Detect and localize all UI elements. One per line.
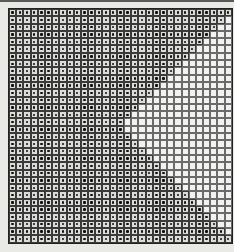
grid-cell-dotted[interactable]	[146, 67, 153, 74]
grid-cell-dotted[interactable]	[67, 170, 74, 177]
grid-cell-dotted[interactable]	[110, 155, 117, 162]
grid-cell-dotted[interactable]	[182, 31, 189, 38]
grid-cell-dotted[interactable]	[102, 67, 109, 74]
grid-cell-dotted[interactable]	[38, 45, 45, 52]
grid-cell-dotted[interactable]	[110, 111, 117, 118]
grid-cell-dotted[interactable]	[23, 184, 30, 191]
grid-cell-empty[interactable]	[182, 60, 189, 67]
grid-cell-dotted[interactable]	[203, 24, 210, 31]
grid-cell-dotted[interactable]	[9, 38, 16, 45]
grid-cell-dotted[interactable]	[95, 38, 102, 45]
grid-cell-dotted[interactable]	[23, 126, 30, 133]
grid-cell-empty[interactable]	[225, 177, 232, 184]
grid-cell-dotted[interactable]	[38, 148, 45, 155]
grid-cell-empty[interactable]	[153, 148, 160, 155]
grid-cell-dotted[interactable]	[52, 184, 59, 191]
grid-cell-dotted[interactable]	[81, 75, 88, 82]
grid-cell-empty[interactable]	[210, 162, 217, 169]
grid-cell-dotted[interactable]	[102, 31, 109, 38]
grid-cell-dotted[interactable]	[9, 75, 16, 82]
grid-cell-dotted[interactable]	[67, 118, 74, 125]
grid-cell-dotted[interactable]	[23, 235, 30, 242]
grid-cell-dotted[interactable]	[124, 9, 131, 16]
grid-cell-dotted[interactable]	[131, 213, 138, 220]
grid-cell-dotted[interactable]	[117, 60, 124, 67]
grid-cell-dotted[interactable]	[153, 60, 160, 67]
grid-cell-empty[interactable]	[160, 155, 167, 162]
grid-cell-dotted[interactable]	[131, 82, 138, 89]
grid-cell-empty[interactable]	[182, 126, 189, 133]
grid-cell-dotted[interactable]	[146, 191, 153, 198]
grid-cell-dotted[interactable]	[174, 199, 181, 206]
grid-cell-dotted[interactable]	[117, 133, 124, 140]
grid-cell-dotted[interactable]	[124, 31, 131, 38]
grid-cell-dotted[interactable]	[160, 75, 167, 82]
grid-cell-dotted[interactable]	[45, 82, 52, 89]
grid-cell-empty[interactable]	[217, 155, 224, 162]
grid-cell-dotted[interactable]	[174, 228, 181, 235]
grid-cell-dotted[interactable]	[102, 191, 109, 198]
grid-cell-dotted[interactable]	[117, 148, 124, 155]
grid-cell-dotted[interactable]	[117, 53, 124, 60]
grid-cell-dotted[interactable]	[23, 45, 30, 52]
grid-cell-empty[interactable]	[210, 177, 217, 184]
grid-cell-dotted[interactable]	[52, 31, 59, 38]
grid-cell-dotted[interactable]	[52, 67, 59, 74]
grid-cell-dotted[interactable]	[67, 16, 74, 23]
grid-cell-dotted[interactable]	[124, 191, 131, 198]
grid-cell-dotted[interactable]	[110, 82, 117, 89]
grid-cell-dotted[interactable]	[45, 221, 52, 228]
grid-cell-dotted[interactable]	[52, 140, 59, 147]
grid-cell-empty[interactable]	[203, 191, 210, 198]
grid-cell-dotted[interactable]	[81, 235, 88, 242]
grid-cell-dotted[interactable]	[74, 213, 81, 220]
grid-cell-empty[interactable]	[225, 38, 232, 45]
grid-cell-dotted[interactable]	[174, 31, 181, 38]
grid-cell-dotted[interactable]	[88, 213, 95, 220]
grid-cell-empty[interactable]	[196, 111, 203, 118]
grid-cell-empty[interactable]	[217, 67, 224, 74]
grid-cell-empty[interactable]	[182, 67, 189, 74]
grid-cell-dotted[interactable]	[59, 170, 66, 177]
grid-cell-dotted[interactable]	[110, 45, 117, 52]
grid-cell-dotted[interactable]	[81, 206, 88, 213]
grid-cell-dotted[interactable]	[81, 67, 88, 74]
grid-cell-dotted[interactable]	[16, 97, 23, 104]
grid-cell-dotted[interactable]	[74, 228, 81, 235]
grid-cell-empty[interactable]	[196, 60, 203, 67]
grid-cell-dotted[interactable]	[81, 53, 88, 60]
grid-cell-empty[interactable]	[210, 206, 217, 213]
grid-cell-empty[interactable]	[146, 118, 153, 125]
grid-cell-dotted[interactable]	[38, 133, 45, 140]
grid-cell-dotted[interactable]	[160, 191, 167, 198]
grid-cell-empty[interactable]	[189, 170, 196, 177]
grid-cell-dotted[interactable]	[174, 38, 181, 45]
grid-cell-empty[interactable]	[189, 60, 196, 67]
grid-cell-dotted[interactable]	[131, 9, 138, 16]
grid-cell-dotted[interactable]	[95, 148, 102, 155]
grid-cell-dotted[interactable]	[174, 191, 181, 198]
grid-cell-empty[interactable]	[146, 111, 153, 118]
grid-cell-dotted[interactable]	[16, 126, 23, 133]
grid-cell-dotted[interactable]	[74, 133, 81, 140]
grid-cell-dotted[interactable]	[95, 31, 102, 38]
grid-cell-empty[interactable]	[203, 111, 210, 118]
grid-cell-empty[interactable]	[203, 133, 210, 140]
grid-cell-empty[interactable]	[196, 155, 203, 162]
grid-cell-dotted[interactable]	[124, 75, 131, 82]
grid-cell-dotted[interactable]	[45, 133, 52, 140]
grid-cell-empty[interactable]	[182, 140, 189, 147]
grid-cell-dotted[interactable]	[74, 162, 81, 169]
game-board[interactable]	[8, 8, 233, 244]
grid-cell-dotted[interactable]	[124, 82, 131, 89]
grid-cell-dotted[interactable]	[95, 111, 102, 118]
grid-cell-dotted[interactable]	[95, 60, 102, 67]
grid-cell-dotted[interactable]	[138, 155, 145, 162]
grid-cell-empty[interactable]	[210, 199, 217, 206]
grid-cell-dotted[interactable]	[59, 133, 66, 140]
grid-cell-empty[interactable]	[160, 162, 167, 169]
grid-cell-dotted[interactable]	[81, 140, 88, 147]
grid-cell-dotted[interactable]	[138, 89, 145, 96]
grid-cell-dotted[interactable]	[23, 82, 30, 89]
grid-cell-dotted[interactable]	[110, 133, 117, 140]
